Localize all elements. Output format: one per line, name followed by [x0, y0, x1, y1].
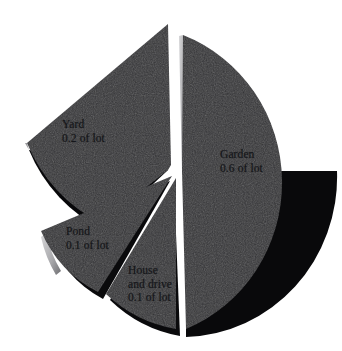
slice-label-garden: Garden 0.6 of lot [220, 148, 263, 175]
slice-group-garden [179, 35, 337, 337]
slice-label-house-line1: House [128, 264, 172, 278]
pie-chart: Garden 0.6 of lot Yard 0.2 of lot Pond 0… [0, 0, 342, 351]
slice-label-pond-value: 0.1 of lot [66, 239, 109, 253]
slice-label-house-value: 0.1 of lot [128, 291, 172, 305]
slice-label-pond-name: Pond [66, 225, 109, 239]
slice-label-house-and-drive: House and drive 0.1 of lot [128, 264, 172, 305]
slice-label-yard: Yard 0.2 of lot [62, 118, 105, 145]
slice-label-garden-value: 0.6 of lot [220, 162, 263, 176]
slice-label-yard-value: 0.2 of lot [62, 132, 105, 146]
slice-label-house-line2: and drive [128, 278, 172, 292]
slice-label-garden-name: Garden [220, 148, 263, 162]
slice-label-yard-name: Yard [62, 118, 105, 132]
slice-label-pond: Pond 0.1 of lot [66, 225, 109, 252]
